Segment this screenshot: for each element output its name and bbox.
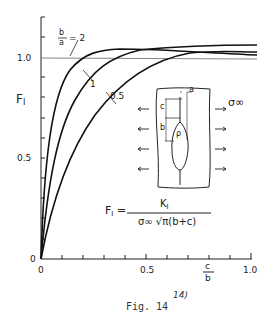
inset-label-a: a <box>189 86 194 94</box>
x-tick-0-5: 0.5 <box>140 266 154 275</box>
y-tick-0-5: 0.5 <box>17 154 31 163</box>
y-tick-0: 0 <box>30 255 36 264</box>
reference-line-1 <box>41 58 257 59</box>
inset-diagram <box>138 88 226 188</box>
curve-b-a-05 <box>41 51 257 259</box>
param-den: a <box>59 39 64 47</box>
inset-label-b: b <box>160 124 165 132</box>
param-num: b <box>59 29 64 37</box>
x-axis-label-den: b <box>205 274 211 283</box>
x-tick-0: 0 <box>38 266 44 275</box>
figure-caption: Fig. 14 <box>126 301 168 312</box>
formula-denominator: σ∞ √π(b+c) <box>138 216 196 227</box>
inset-label-stress: σ∞ <box>228 97 244 108</box>
curve-label-0-5: 0.5 <box>110 92 124 101</box>
y-axis-label: FI <box>16 93 25 107</box>
x-tick-1-0: 1.0 <box>243 266 257 275</box>
figure-reference: 14) <box>173 290 188 300</box>
arrows-right <box>215 107 226 171</box>
y-tick-1-0: 1.0 <box>17 54 31 63</box>
formula-lhs: FI = <box>105 204 126 218</box>
chart-figure <box>0 0 274 324</box>
param-eq: = 2 <box>69 34 85 43</box>
arrows-left <box>138 107 149 171</box>
x-axis-label-num: c <box>205 262 210 271</box>
curve-label-1: 1 <box>90 80 96 89</box>
formula-numerator: KI <box>160 198 169 211</box>
x-ticks <box>62 253 251 259</box>
inset-label-c: c <box>160 103 164 111</box>
inset-label-rho: ρ <box>176 130 181 138</box>
